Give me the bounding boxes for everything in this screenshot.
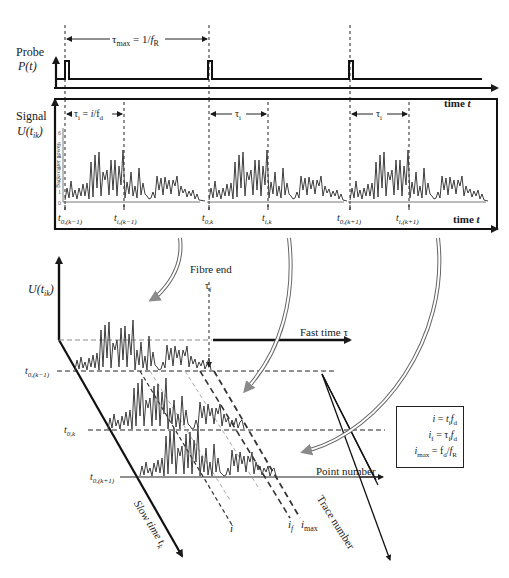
formula-imax: imax = fd/fR (414, 445, 457, 459)
tick-ti-k: ti,k (262, 212, 272, 228)
index-if-label: if (288, 518, 293, 535)
y-tick-1: 1 (58, 186, 61, 198)
fast-time-label: Fast time τ (300, 326, 348, 338)
tick-t0-k: t0,k (202, 212, 213, 228)
tick-ti-k-minus-1: ti,(k−1) (114, 212, 136, 228)
row-label-t0-k-minus-1: t0,(k−1) (25, 365, 49, 381)
probe-time-axis-label: time t (444, 97, 471, 109)
tau-i-label-2: τi (235, 108, 241, 124)
formula-i: i = tifd (433, 413, 457, 427)
diagram-canvas (0, 0, 509, 578)
formula-if: if = τffd (429, 429, 457, 443)
y-tick-3: 3 (58, 162, 61, 174)
tau-max-label: τmax = 1/fR (112, 33, 159, 50)
tick-t0-k-plus-1: t0,(k+1) (337, 212, 361, 228)
index-imax-label: imax (301, 518, 318, 535)
tick-t0-k-minus-1: t0,(k−1) (58, 212, 82, 228)
y-tick-6: 6 (58, 127, 61, 139)
y-tick-0: 0 (58, 197, 61, 209)
tau-i-label-1: τi = i/fd (74, 108, 103, 124)
signal-label: Signal (16, 110, 47, 122)
signal-time-axis-label: time t (453, 213, 480, 225)
y-tick-5: 5 (58, 138, 61, 150)
y-tick-2: 2 (58, 174, 61, 186)
index-i-label: i (230, 522, 233, 534)
row-label-t0-k: t0,k (64, 424, 75, 440)
point-number-label: Point number (316, 465, 376, 477)
y-tick-4: 4 (58, 150, 61, 162)
fibre-end-label: Fibre end (190, 263, 232, 275)
row-label-t0-k-plus-1: t0,(k+1) (90, 471, 114, 487)
waterfall-y-label: U(tik) (28, 283, 54, 300)
signal-panel (55, 99, 497, 230)
probe-function-label: P(t) (18, 60, 37, 72)
probe-label: Probe (16, 46, 44, 58)
tau-i-label-3: τi (376, 108, 382, 124)
signal-function-label: U(tik) (17, 125, 43, 142)
tau-f-label: τf (205, 280, 211, 296)
formula-box: i = tifd if = τffd imax = fd/fR (396, 406, 464, 468)
tick-ti-k-plus-1: ti,(k+1) (396, 212, 418, 228)
